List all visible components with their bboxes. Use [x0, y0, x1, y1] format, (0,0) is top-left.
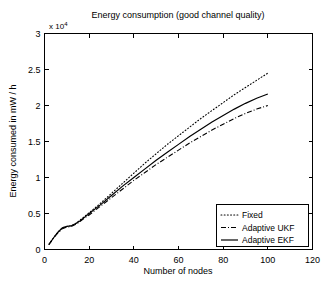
y-axis-multiplier-exponent: 4 [64, 21, 68, 27]
y-tick-label: 1.5 [28, 137, 41, 147]
chart-title: Energy consumption (good channel quality… [91, 10, 264, 20]
y-tick-label: 1 [35, 173, 40, 183]
y-axis-multiplier-label: x 104 [49, 21, 68, 31]
chart-legend[interactable]: FixedAdaptive UKFAdaptive EKF [217, 205, 309, 247]
x-tick-label: 100 [260, 255, 275, 265]
y-tick-label: 0 [35, 245, 40, 255]
x-tick-label: 80 [218, 255, 228, 265]
x-tick-label: 20 [84, 255, 94, 265]
x-tick-label: 60 [173, 255, 183, 265]
x-tick-label: 0 [42, 255, 47, 265]
y-axis-title: Energy consumed in mW / h [8, 84, 18, 197]
legend-label-adaptive-ekf[interactable]: Adaptive EKF [242, 235, 294, 245]
y-tick-label: 3 [35, 29, 40, 39]
chart-figure: Energy consumption (good channel quality… [0, 0, 335, 290]
legend-label-fixed[interactable]: Fixed [242, 210, 263, 220]
y-tick-label: 2.5 [28, 65, 41, 75]
legend-label-adaptive-ukf[interactable]: Adaptive UKF [242, 223, 294, 233]
y-tick-label: 2 [35, 101, 40, 111]
x-axis-title: Number of nodes [143, 266, 213, 276]
x-tick-label: 120 [305, 255, 320, 265]
y-axis-multiplier-base: x 10 [49, 22, 65, 31]
x-tick-label: 40 [129, 255, 139, 265]
y-tick-label: 0.5 [28, 209, 41, 219]
energy-consumption-line-chart: Energy consumption (good channel quality… [0, 0, 335, 290]
